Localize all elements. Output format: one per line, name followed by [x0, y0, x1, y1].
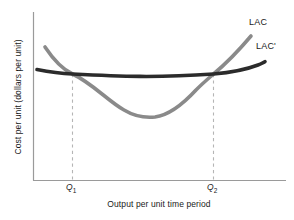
- q1-symbol: Q: [66, 182, 73, 192]
- x-axis-label: Output per unit time period: [33, 199, 285, 209]
- lac-prime-curve-label: LAC': [256, 41, 276, 51]
- q2-symbol: Q: [207, 182, 214, 192]
- lac-curve-label: LAC: [249, 17, 267, 27]
- lac-prime-curve: [37, 62, 265, 77]
- plot-area: [0, 0, 294, 220]
- cost-curve-figure: Cost per unit (dollars per unit) Output …: [0, 0, 294, 220]
- q2-subscript: 2: [214, 187, 218, 194]
- x-tick-label-q1: Q1: [66, 182, 76, 194]
- y-axis-label: Cost per unit (dollars per unit): [13, 32, 23, 162]
- q1-subscript: 1: [73, 187, 77, 194]
- x-tick-label-q2: Q2: [207, 182, 217, 194]
